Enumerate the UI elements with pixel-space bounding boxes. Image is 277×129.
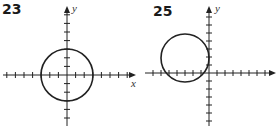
graph-25 bbox=[140, 0, 277, 129]
graph-23 bbox=[0, 0, 140, 129]
panel-25: 25 y bbox=[140, 0, 277, 129]
panel-23: 23 y x bbox=[0, 0, 140, 129]
